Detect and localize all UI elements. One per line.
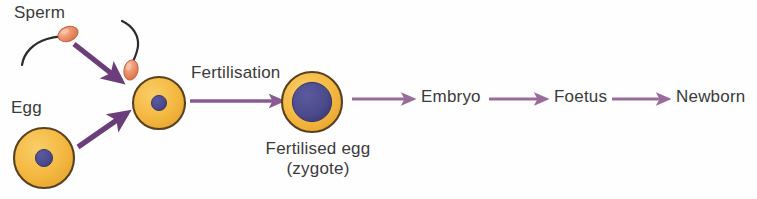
- caption-fertilised-egg: Fertilised egg (zygote): [245, 139, 391, 179]
- label-embryo: Embryo: [421, 87, 481, 107]
- label-foetus: Foetus: [554, 87, 607, 107]
- sperm-tail: [22, 36, 61, 65]
- caption-fertilised-egg-line1: Fertilised egg: [245, 139, 391, 159]
- egg-cell: [14, 128, 74, 188]
- sperm-tail: [122, 21, 138, 62]
- zygote-nucleus: [292, 82, 331, 121]
- label-egg: Egg: [11, 98, 42, 118]
- fertilisation-site-cell: [133, 77, 185, 129]
- label-fertilisation: Fertilisation: [191, 63, 281, 83]
- label-newborn: Newborn: [676, 87, 745, 107]
- sperm-head: [56, 24, 81, 45]
- caption-fertilised-egg-line2: (zygote): [245, 159, 391, 179]
- egg-nucleus: [35, 149, 52, 166]
- fertilisation-diagram: Sperm Egg Fertilisation Fertilised egg (…: [0, 0, 757, 199]
- arrow-egg-to-fertilisation: [78, 113, 127, 147]
- zygote-cell: [282, 72, 342, 132]
- sperm-cell-approaching: [122, 21, 140, 81]
- sperm-cell-free: [22, 24, 80, 65]
- label-sperm: Sperm: [14, 3, 65, 23]
- sperm-head: [122, 59, 140, 82]
- arrow-sperm-to-egg: [74, 44, 121, 81]
- cell-nucleus: [151, 95, 166, 110]
